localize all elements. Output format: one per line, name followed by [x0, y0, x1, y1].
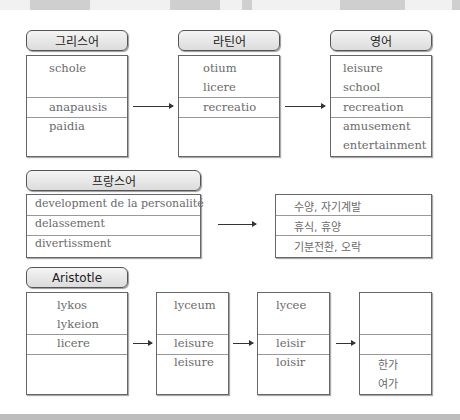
french-word: divertissment: [35, 237, 200, 250]
bottom-decorative-band: [0, 414, 460, 420]
english-word: leisure: [343, 61, 431, 75]
french-word: delassement: [35, 217, 200, 230]
divider: [360, 334, 431, 335]
chain-word: 여가: [378, 375, 431, 391]
divider: [27, 215, 200, 216]
aristotle-word: lykos: [57, 298, 127, 312]
chain-word: 한가: [378, 356, 431, 372]
chain-word: loisir: [276, 355, 329, 369]
arrow-right-icon: [285, 106, 325, 107]
french-box: development de la personalité delassemen…: [26, 194, 201, 258]
greek-box: schole anapausis paidia: [26, 55, 128, 157]
divider: [179, 97, 279, 98]
arrow-right-icon: [133, 106, 173, 107]
greek-header: 그리스어: [26, 30, 128, 51]
divider: [27, 117, 127, 118]
english-box: leisure school recreation amusement ente…: [330, 55, 432, 157]
greek-word: schole: [49, 61, 127, 75]
chain-box-3: 한가 여가: [359, 292, 432, 395]
chain-word: lycee: [276, 298, 329, 312]
banner-shape: [340, 0, 405, 10]
latin-word: licere: [203, 80, 279, 94]
latin-header: 라틴어: [178, 30, 280, 51]
korean-meaning: 기분전환, 오락: [294, 238, 431, 254]
korean-meaning: 휴식, 휴양: [294, 218, 431, 234]
chain-box-2: lycee leisir loisir: [257, 292, 330, 395]
latin-box: otium licere recreatio: [178, 55, 280, 157]
divider: [276, 215, 431, 216]
aristotle-box: lykos lykeion licere: [26, 292, 128, 395]
chain-word: leisure: [174, 336, 228, 350]
korean-meaning-box: 수양, 자기계발 휴식, 휴양 기분전환, 오락: [275, 194, 432, 258]
english-word: school: [343, 80, 431, 94]
latin-word: otium: [203, 61, 279, 75]
banner-shape: [30, 0, 90, 10]
chain-word: lyceum: [174, 298, 228, 312]
english-header: 영어: [330, 30, 432, 51]
french-header: 프랑스어: [26, 170, 201, 191]
chain-word: leisure: [174, 355, 228, 369]
chain-box-1: lyceum leisure leisure: [156, 292, 229, 395]
divider: [360, 354, 431, 355]
divider: [27, 235, 200, 236]
english-word: recreation: [343, 100, 431, 114]
aristotle-word: licere: [57, 336, 127, 350]
arrow-right-icon: [336, 343, 355, 344]
divider: [331, 117, 431, 118]
aristotle-header: Aristotle: [26, 267, 128, 288]
divider: [157, 334, 228, 335]
arrow-right-icon: [218, 224, 256, 225]
divider: [27, 97, 127, 98]
divider: [27, 354, 127, 355]
top-decorative-banner: [0, 0, 460, 10]
chain-word: leisir: [276, 336, 329, 350]
greek-word: paidia: [49, 119, 127, 133]
banner-shape: [242, 0, 252, 10]
divider: [179, 117, 279, 118]
banner-shape: [170, 0, 220, 10]
banner-shape: [452, 0, 460, 10]
greek-word: anapausis: [49, 100, 127, 114]
korean-meaning: 수양, 자기계발: [294, 198, 431, 214]
arrow-right-icon: [133, 343, 152, 344]
arrow-right-icon: [233, 343, 253, 344]
latin-word: recreatio: [203, 100, 279, 114]
divider: [276, 235, 431, 236]
divider: [331, 97, 431, 98]
aristotle-word: lykeion: [57, 317, 127, 331]
english-word: amusement: [343, 119, 431, 133]
divider: [27, 334, 127, 335]
english-word: entertainment: [343, 138, 431, 152]
divider: [258, 334, 329, 335]
french-word: development de la personalité: [35, 197, 200, 210]
